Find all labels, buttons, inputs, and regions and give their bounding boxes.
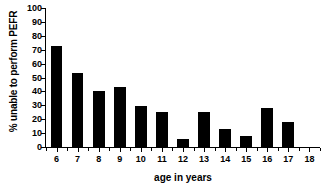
- x-axis-tick-mark: [267, 148, 268, 152]
- bar-slot: [151, 8, 172, 147]
- bar: [135, 106, 147, 147]
- bar: [114, 87, 126, 147]
- y-axis-tick-label: 0: [16, 143, 42, 152]
- x-axis-boundary-tick-mark: [194, 148, 195, 151]
- y-axis-tick-label: 100: [16, 4, 42, 13]
- y-axis-tick-label: 30: [16, 101, 42, 110]
- x-axis-boundary-tick-mark: [46, 148, 47, 151]
- y-axis-tick-mark: [41, 78, 45, 79]
- x-axis-boundary-tick-mark: [299, 148, 300, 151]
- x-axis-boundary-tick-mark: [320, 148, 321, 151]
- bar: [240, 136, 252, 147]
- x-axis-tick-label: 8: [88, 153, 109, 165]
- bar: [156, 112, 168, 147]
- bar: [51, 46, 63, 147]
- x-axis-tick-mark: [246, 148, 247, 152]
- bar-slot: [236, 8, 257, 147]
- y-axis-tick-label: 70: [16, 45, 42, 54]
- y-axis-tick-label: 50: [16, 73, 42, 82]
- x-axis-tick-labels: 6789101112131415161718: [46, 153, 320, 167]
- x-axis-tick-label: 17: [278, 153, 299, 165]
- bar-slot: [172, 8, 193, 147]
- x-axis-tick-label: 6: [46, 153, 67, 165]
- x-axis-tick-label: 18: [299, 153, 320, 165]
- x-axis-tick-mark: [99, 148, 100, 152]
- x-axis-boundary-tick-mark: [151, 148, 152, 151]
- x-axis-tick-mark: [120, 148, 121, 152]
- bar: [177, 139, 189, 147]
- x-axis-tick-label: 12: [172, 153, 193, 165]
- x-axis-tick-mark: [78, 148, 79, 152]
- bar: [93, 91, 105, 147]
- x-axis-title: age in years: [46, 172, 320, 183]
- x-axis-boundary-tick-mark: [130, 148, 131, 151]
- y-axis-tick-label: 40: [16, 87, 42, 96]
- y-axis-tick-label: 90: [16, 17, 42, 26]
- y-axis-tick-mark: [41, 22, 45, 23]
- y-axis-tick-label: 60: [16, 59, 42, 68]
- bar-slot: [299, 8, 320, 147]
- y-axis-tick-mark: [41, 105, 45, 106]
- bar: [198, 112, 210, 147]
- bar-slot: [257, 8, 278, 147]
- bar-slot: [194, 8, 215, 147]
- x-axis-tick-label: 13: [194, 153, 215, 165]
- bar-slot: [109, 8, 130, 147]
- y-axis-tick-mark: [41, 36, 45, 37]
- y-axis-tick-label: 10: [16, 129, 42, 138]
- y-axis-tick-mark: [41, 50, 45, 51]
- y-axis-tick-labels: 0102030405060708090100: [16, 8, 42, 147]
- x-axis-tick-label: 7: [67, 153, 88, 165]
- bar-chart: % unable to perform PEFR 010203040506070…: [0, 0, 325, 196]
- bar-slot: [278, 8, 299, 147]
- x-axis-tick-mark: [204, 148, 205, 152]
- x-axis-tick-label: 9: [109, 153, 130, 165]
- bar: [72, 73, 84, 147]
- bar-slot: [46, 8, 67, 147]
- bar-slot: [130, 8, 151, 147]
- x-axis-boundary-tick-mark: [172, 148, 173, 151]
- bar: [219, 129, 231, 147]
- y-axis-tick-mark: [41, 119, 45, 120]
- y-axis-tick-label: 80: [16, 31, 42, 40]
- x-axis-boundary-tick-mark: [67, 148, 68, 151]
- x-axis-tick-mark: [183, 148, 184, 152]
- y-axis-tick-mark: [41, 91, 45, 92]
- x-axis-tick-mark: [309, 148, 310, 152]
- y-axis-tick-mark: [41, 147, 45, 148]
- x-axis-boundary-tick-mark: [215, 148, 216, 151]
- y-axis-tick-mark: [41, 64, 45, 65]
- x-axis-tick-mark: [288, 148, 289, 152]
- x-axis-tick-label: 11: [151, 153, 172, 165]
- x-axis-boundary-tick-mark: [257, 148, 258, 151]
- bar: [261, 108, 273, 147]
- plot-area: [46, 8, 320, 147]
- x-axis-tick-label: 16: [257, 153, 278, 165]
- bar-slot: [88, 8, 109, 147]
- x-axis-boundary-tick-mark: [109, 148, 110, 151]
- bar-slot: [215, 8, 236, 147]
- x-axis-tick-mark: [57, 148, 58, 152]
- x-axis-boundary-tick-mark: [236, 148, 237, 151]
- bar: [282, 122, 294, 147]
- x-axis-tick-label: 14: [215, 153, 236, 165]
- x-axis-tick-mark: [162, 148, 163, 152]
- x-axis-boundary-tick-mark: [278, 148, 279, 151]
- x-axis-tick-mark: [141, 148, 142, 152]
- y-axis-tick-label: 20: [16, 115, 42, 124]
- x-axis-tick-mark: [225, 148, 226, 152]
- y-axis-tick-mark: [41, 8, 45, 9]
- x-axis-boundary-tick-mark: [88, 148, 89, 151]
- x-axis-tick-label: 15: [236, 153, 257, 165]
- y-axis-tick-mark: [41, 133, 45, 134]
- x-axis-tick-label: 10: [130, 153, 151, 165]
- bar-slot: [67, 8, 88, 147]
